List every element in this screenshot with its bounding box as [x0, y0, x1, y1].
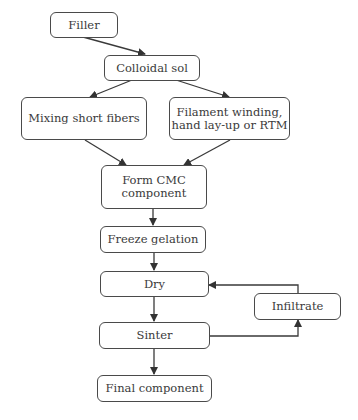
arrow-sinter-to-infiltrate: [209, 320, 298, 336]
node-filler: Filler: [50, 12, 118, 38]
node-form-cmc-component: Form CMC component: [101, 165, 207, 209]
node-label: Infiltrate: [272, 300, 324, 313]
node-label: Mixing short fibers: [28, 112, 139, 125]
arrow-infiltrate-to-dry: [209, 285, 298, 293]
node-mixing-short-fibers: Mixing short fibers: [21, 97, 147, 140]
node-final-component: Final component: [97, 375, 212, 402]
arrow-filler-to-sol: [83, 37, 145, 54]
node-label: Form CMC component: [122, 174, 187, 200]
arrow-sol-to-filament: [176, 80, 229, 97]
node-label: Final component: [105, 382, 203, 395]
node-dry: Dry: [100, 271, 209, 297]
node-freeze-gelation: Freeze gelation: [100, 226, 206, 253]
node-infiltrate: Infiltrate: [254, 293, 341, 320]
node-colloidal-sol: Colloidal sol: [104, 55, 200, 81]
node-label: Freeze gelation: [108, 233, 199, 246]
flowchart-canvas: Filler Colloidal sol Mixing short fibers…: [0, 0, 358, 420]
arrow-mixing-to-form: [85, 140, 126, 165]
node-label: Filament winding, hand lay-up or RTM: [171, 106, 287, 132]
node-filament-winding: Filament winding, hand lay-up or RTM: [169, 97, 290, 140]
arrow-filament-to-form: [184, 140, 230, 165]
node-label: Dry: [144, 278, 165, 291]
node-sinter: Sinter: [99, 322, 210, 349]
node-label: Filler: [68, 19, 99, 32]
node-label: Sinter: [137, 329, 173, 342]
node-label: Colloidal sol: [116, 62, 188, 75]
arrow-sol-to-mixing: [90, 80, 132, 97]
